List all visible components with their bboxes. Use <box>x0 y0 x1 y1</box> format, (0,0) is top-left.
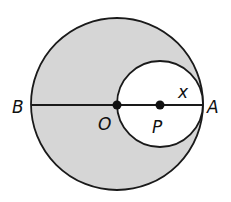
point-O <box>113 101 122 110</box>
label-x: x <box>177 82 189 102</box>
point-P <box>156 101 165 110</box>
label-O: O <box>98 114 111 134</box>
label-B: B <box>12 97 24 117</box>
label-P: P <box>152 117 163 137</box>
label-A: A <box>206 97 219 117</box>
circle-diagram: B O P A x <box>0 0 231 202</box>
